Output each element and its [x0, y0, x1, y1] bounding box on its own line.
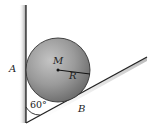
- label-angle: 60°: [30, 99, 47, 110]
- vertical-wall: [19, 5, 26, 123]
- label-contact-a: A: [8, 63, 16, 74]
- label-radius-r: R: [68, 70, 77, 81]
- sphere: [26, 38, 90, 102]
- label-contact-b: B: [77, 103, 85, 114]
- label-center-m: M: [52, 55, 64, 66]
- sphere-between-wall-and-incline-diagram: M R A B 60°: [0, 0, 157, 133]
